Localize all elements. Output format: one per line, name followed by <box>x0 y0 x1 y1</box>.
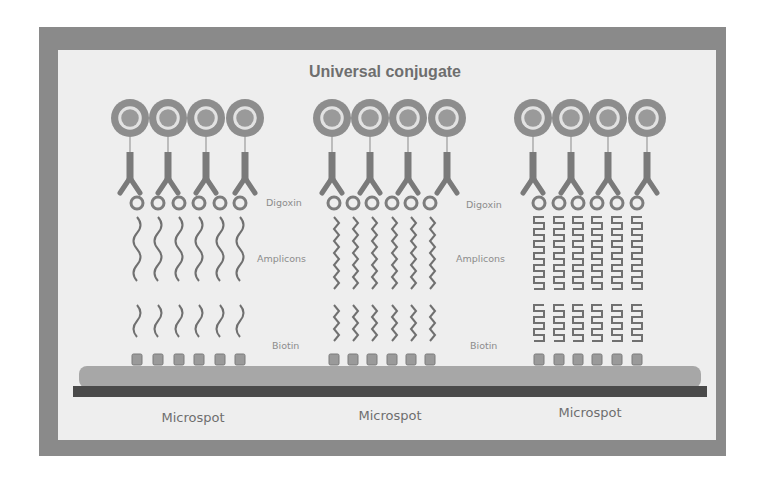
biotin-icon <box>554 354 564 365</box>
biotin-icon <box>174 354 184 365</box>
amplicon-bottom-icon <box>534 305 544 341</box>
amplicon-bottom-icon <box>334 305 339 341</box>
conjugate-core <box>159 109 176 126</box>
amplicon-top-icon <box>176 217 183 281</box>
surface-layer <box>79 366 701 388</box>
digoxin-icon <box>347 197 359 209</box>
substrate-baseline <box>73 386 707 397</box>
antibody-icon <box>637 152 657 193</box>
universal-conjugate <box>389 99 427 193</box>
amplicon-strand <box>611 197 623 365</box>
biotin-icon <box>387 354 397 365</box>
biotin-icon <box>132 354 142 365</box>
label-amplicons: Amplicons <box>257 253 306 264</box>
biotin-icon <box>612 354 622 365</box>
biotin-icon <box>348 354 358 365</box>
amplicon-top-icon <box>612 217 622 289</box>
amplicon-strand <box>533 197 545 365</box>
amplicon-strand <box>193 197 205 365</box>
diagram-title: Universal conjugate <box>309 63 461 80</box>
biotin-icon <box>592 354 602 365</box>
label-digoxin: Digoxin <box>266 197 302 208</box>
conjugate-core <box>562 109 579 126</box>
antibody-icon <box>235 152 255 193</box>
amplicon-bottom-icon <box>196 305 203 337</box>
biotin-icon <box>534 354 544 365</box>
biotin-icon <box>425 354 435 365</box>
digoxin-icon <box>234 197 246 209</box>
digoxin-icon <box>386 197 398 209</box>
antibody-icon <box>398 152 418 193</box>
amplicon-bottom-icon <box>353 305 358 341</box>
amplicon-bottom-icon <box>372 305 377 341</box>
biotin-icon <box>406 354 416 365</box>
digoxin-icon <box>424 197 436 209</box>
biotin-icon <box>215 354 225 365</box>
antibody-icon <box>561 152 581 193</box>
amplicon-strand <box>405 197 417 365</box>
conjugate-core <box>438 109 455 126</box>
amplicon-bottom-icon <box>237 305 244 337</box>
amplicon-top-icon <box>237 217 244 281</box>
amplicon-top-icon <box>217 217 224 281</box>
amplicon-strand <box>131 197 143 365</box>
biotin-icon <box>329 354 339 365</box>
antibody-icon <box>196 152 216 193</box>
digoxin-icon <box>591 197 603 209</box>
amplicon-strand <box>152 197 164 365</box>
antibody-icon <box>158 152 178 193</box>
biotin-icon <box>573 354 583 365</box>
universal-conjugate <box>351 99 389 193</box>
amplicon-top-icon <box>334 217 339 289</box>
conjugate-core <box>197 109 214 126</box>
amplicon-top-icon <box>632 217 642 289</box>
biotin-icon <box>632 354 642 365</box>
microspot-assay-diagram: Universal conjugate DigoxinAmpliconsBiot… <box>0 0 758 478</box>
assay-groups <box>111 99 666 365</box>
amplicon-strand <box>386 197 398 365</box>
conjugate-core <box>323 109 340 126</box>
amplicon-top-icon <box>134 217 141 281</box>
biotin-icon <box>367 354 377 365</box>
digoxin-icon <box>366 197 378 209</box>
amplicon-top-icon <box>573 217 583 289</box>
amplicon-strand <box>591 197 603 365</box>
antibody-icon <box>360 152 380 193</box>
label-digoxin: Digoxin <box>466 199 502 210</box>
conjugate-core <box>599 109 616 126</box>
side-labels: DigoxinAmpliconsBiotinDigoxinAmpliconsBi… <box>257 197 505 351</box>
amplicon-strand <box>347 197 359 365</box>
universal-conjugate <box>149 99 187 193</box>
digoxin-icon <box>131 197 143 209</box>
universal-conjugate <box>628 99 666 193</box>
amplicon-bottom-icon <box>155 305 162 337</box>
microspot-label: Microspot <box>558 405 621 420</box>
microspot-label: Microspot <box>358 408 421 423</box>
conjugate-core <box>236 109 253 126</box>
amplicon-top-icon <box>411 217 416 289</box>
universal-conjugate <box>514 99 552 193</box>
assay-group-left <box>111 99 264 365</box>
digoxin-icon <box>152 197 164 209</box>
digoxin-icon <box>214 197 226 209</box>
amplicon-bottom-icon <box>134 305 141 337</box>
amplicon-bottom-icon <box>392 305 397 341</box>
amplicon-top-icon <box>430 217 435 289</box>
universal-conjugate <box>589 99 627 193</box>
amplicon-bottom-icon <box>612 305 622 341</box>
label-amplicons: Amplicons <box>456 253 505 264</box>
universal-conjugate <box>313 99 351 193</box>
conjugate-core <box>524 109 541 126</box>
label-biotin: Biotin <box>470 340 497 351</box>
conjugate-core <box>121 109 138 126</box>
microspot-labels: MicrospotMicrospotMicrospot <box>161 405 621 425</box>
digoxin-icon <box>572 197 584 209</box>
amplicon-bottom-icon <box>573 305 583 341</box>
amplicon-strand <box>328 197 340 365</box>
antibody-icon <box>322 152 342 193</box>
amplicon-bottom-icon <box>554 305 564 341</box>
amplicon-strand <box>631 197 643 365</box>
microspot-surface <box>73 366 707 397</box>
amplicon-strand <box>424 197 436 365</box>
universal-conjugate <box>226 99 264 193</box>
